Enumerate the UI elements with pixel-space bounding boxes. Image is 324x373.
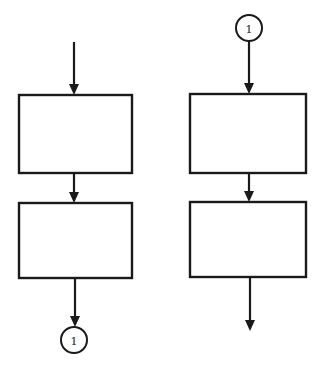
right-column: 1	[190, 15, 306, 331]
flow-arrow	[69, 173, 79, 203]
flow-arrow	[244, 173, 254, 202]
off-page-connector-out: 1	[61, 327, 87, 353]
process-box-2	[19, 203, 132, 278]
off-page-connector-in: 1	[236, 15, 262, 41]
process-box-4	[190, 202, 306, 277]
connector-label: 1	[71, 335, 78, 348]
entry-arrow	[244, 41, 254, 94]
exit-arrow	[245, 277, 255, 331]
process-box-1	[19, 95, 132, 173]
process-box-3	[190, 94, 306, 173]
left-column: 1	[19, 42, 132, 353]
flowchart-canvas: 1 1	[0, 0, 324, 373]
exit-arrow	[70, 278, 80, 327]
entry-arrow	[69, 42, 79, 95]
connector-label: 1	[246, 23, 253, 36]
